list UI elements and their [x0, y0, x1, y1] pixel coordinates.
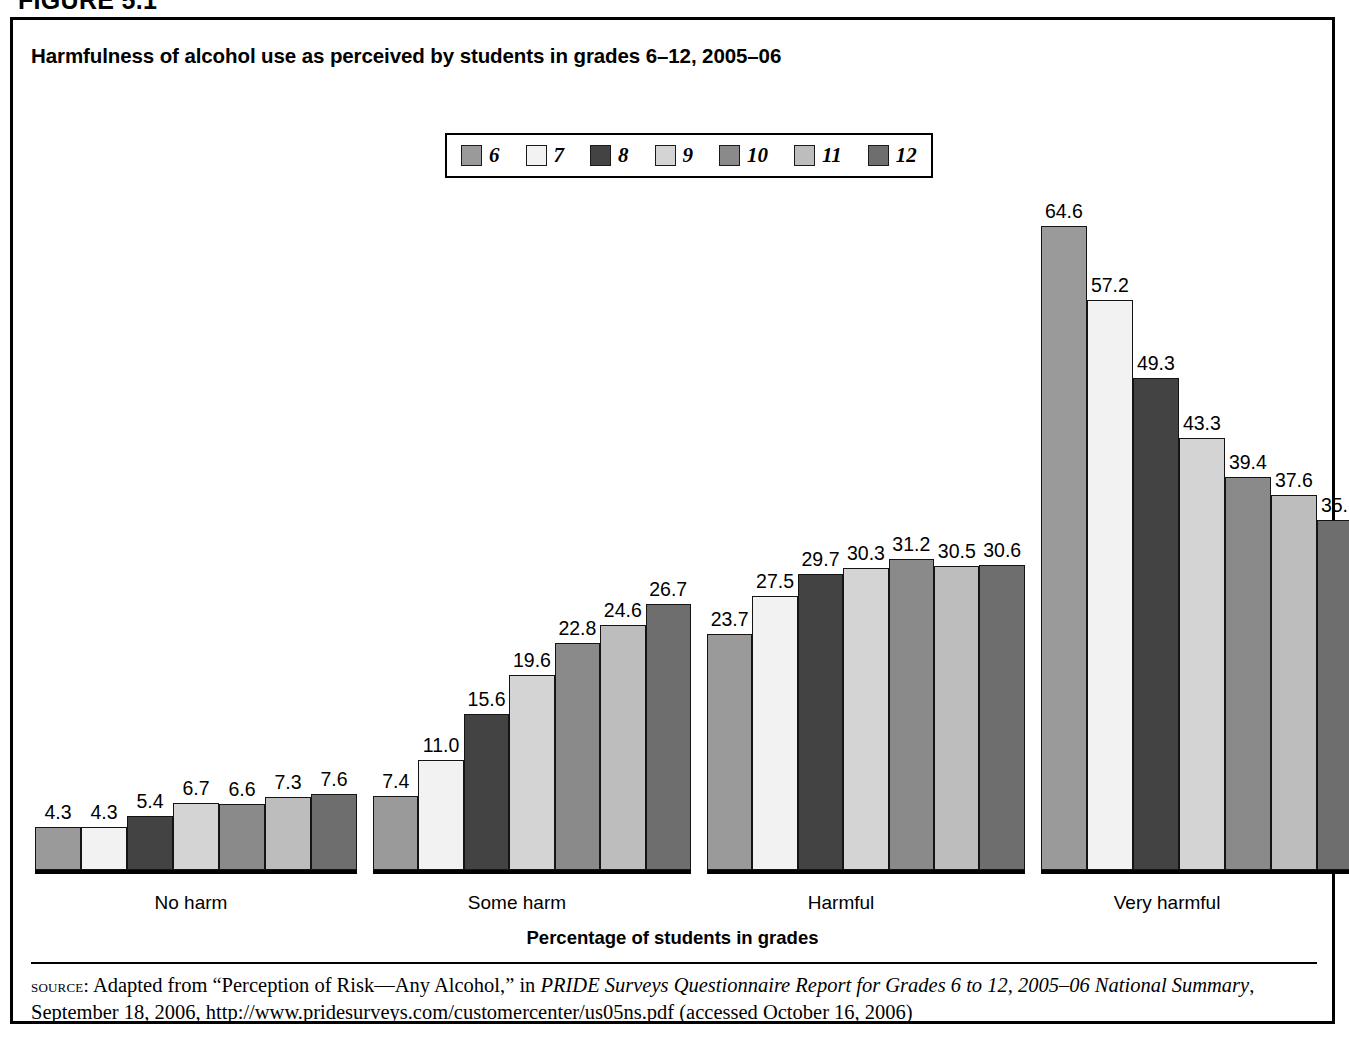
bar	[35, 827, 81, 870]
bar	[1225, 477, 1271, 870]
bar-group-very-harmful: 64.657.249.343.339.437.635.1	[1041, 80, 1349, 870]
bar-value-label: 30.5	[938, 540, 976, 563]
bar-column-grade-6: 7.4	[373, 80, 418, 870]
bar-value-label: 7.4	[382, 770, 409, 793]
bar-value-label: 30.6	[983, 539, 1021, 562]
bar-column-grade-10: 6.6	[219, 80, 265, 870]
bar-value-label: 31.2	[892, 533, 930, 556]
bar-column-grade-12: 7.6	[311, 80, 357, 870]
bar-column-grade-6: 23.7	[707, 80, 752, 870]
category-label: Some harm	[363, 892, 671, 914]
bar-column-grade-9: 30.3	[843, 80, 888, 870]
bar	[843, 568, 888, 870]
bar	[600, 625, 645, 870]
bar	[81, 827, 127, 870]
source-kicker: source:	[31, 975, 89, 996]
bar	[1133, 378, 1179, 870]
bar	[1271, 495, 1317, 870]
bar-column-grade-9: 19.6	[509, 80, 554, 870]
plot-area: 4.34.35.46.76.67.37.67.411.015.619.622.8…	[35, 80, 1323, 870]
bar-column-grade-12: 30.6	[979, 80, 1024, 870]
bar	[219, 804, 265, 870]
bar-column-grade-7: 57.2	[1087, 80, 1133, 870]
bar-column-grade-9: 6.7	[173, 80, 219, 870]
bar-column-grade-7: 27.5	[752, 80, 797, 870]
bar-value-label: 23.7	[711, 608, 749, 631]
source-note: source: Adapted from “Perception of Risk…	[31, 972, 1321, 1026]
bar	[646, 604, 691, 870]
bar-column-grade-8: 5.4	[127, 80, 173, 870]
figure-caption: FIGURE 5.1	[18, 0, 157, 15]
category-label: No harm	[35, 892, 347, 914]
bar	[1179, 438, 1225, 870]
bar-value-label: 19.6	[513, 649, 551, 672]
chart-title: Harmfulness of alcohol use as perceived …	[31, 44, 781, 68]
bar-value-label: 37.6	[1275, 469, 1313, 492]
bar	[979, 565, 1024, 870]
bar-value-label: 39.4	[1229, 451, 1267, 474]
bar-value-label: 64.6	[1045, 200, 1083, 223]
bar-column-grade-11: 30.5	[934, 80, 979, 870]
bar-value-label: 15.6	[468, 688, 506, 711]
category-label: Very harmful	[1011, 892, 1323, 914]
bar-column-grade-10: 22.8	[555, 80, 600, 870]
bar	[752, 596, 797, 870]
bar-value-label: 26.7	[649, 578, 687, 601]
bar-column-grade-6: 4.3	[35, 80, 81, 870]
bar-value-label: 57.2	[1091, 274, 1129, 297]
bar-column-grade-10: 39.4	[1225, 80, 1271, 870]
bar-value-label: 29.7	[802, 548, 840, 571]
bar-value-label: 7.6	[320, 768, 347, 791]
bar-value-label: 5.4	[136, 790, 163, 813]
bar-column-grade-8: 49.3	[1133, 80, 1179, 870]
bar-column-grade-6: 64.6	[1041, 80, 1087, 870]
bar	[707, 634, 752, 870]
axis-baseline-segment	[707, 870, 1025, 874]
bar-value-label: 49.3	[1137, 352, 1175, 375]
bar-value-label: 27.5	[756, 570, 794, 593]
bar	[311, 794, 357, 870]
x-axis-title: Percentage of students in grades	[13, 927, 1332, 949]
category-label: Harmful	[687, 892, 995, 914]
bar-column-grade-11: 7.3	[265, 80, 311, 870]
bar	[418, 760, 463, 870]
bar	[798, 574, 843, 870]
bar	[1087, 300, 1133, 870]
category-axis-labels: No harmSome harmHarmfulVery harmful	[35, 892, 1323, 914]
bar-column-grade-10: 31.2	[889, 80, 934, 870]
bar-group-some-harm: 7.411.015.619.622.824.626.7	[373, 80, 691, 870]
bar	[509, 675, 554, 870]
bar-value-label: 6.6	[228, 778, 255, 801]
bar-value-label: 22.8	[558, 617, 596, 640]
bar-value-label: 7.3	[274, 771, 301, 794]
bar	[934, 566, 979, 870]
bar-value-label: 4.3	[90, 801, 117, 824]
bar	[173, 803, 219, 870]
bar-column-grade-8: 15.6	[464, 80, 509, 870]
bar-column-grade-9: 43.3	[1179, 80, 1225, 870]
bar-group-no-harm: 4.34.35.46.76.67.37.6	[35, 80, 357, 870]
bar-value-label: 24.6	[604, 599, 642, 622]
bar	[127, 816, 173, 870]
axis-baseline-segment	[373, 870, 691, 874]
bar-value-label: 43.3	[1183, 412, 1221, 435]
bar-column-grade-8: 29.7	[798, 80, 843, 870]
axis-baseline-segment	[35, 870, 357, 874]
bar-column-grade-11: 24.6	[600, 80, 645, 870]
bar-group-harmful: 23.727.529.730.331.230.530.6	[707, 80, 1025, 870]
source-title-italic: PRIDE Surveys Questionnaire Report for G…	[540, 974, 1249, 996]
bar-groups: 4.34.35.46.76.67.37.67.411.015.619.622.8…	[35, 80, 1323, 870]
bar	[1317, 520, 1349, 870]
bar-value-label: 11.0	[423, 734, 460, 757]
bar	[1041, 226, 1087, 870]
bar-column-grade-7: 4.3	[81, 80, 127, 870]
bar	[373, 796, 418, 870]
source-divider	[31, 962, 1317, 964]
axis-baseline-segment	[1041, 870, 1349, 874]
bar	[265, 797, 311, 870]
bar-column-grade-11: 37.6	[1271, 80, 1317, 870]
bar-value-label: 6.7	[182, 777, 209, 800]
bar-value-label: 4.3	[44, 801, 71, 824]
bar-column-grade-12: 35.1	[1317, 80, 1349, 870]
bar-column-grade-7: 11.0	[418, 80, 463, 870]
